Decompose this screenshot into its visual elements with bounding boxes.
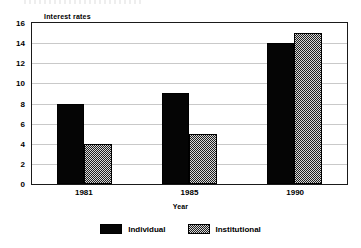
- y-axis-tick-label: 2: [21, 159, 25, 168]
- legend-label: Individual: [128, 225, 165, 234]
- bar-institutional-1985: [189, 134, 216, 184]
- bar-series-container: [32, 23, 347, 184]
- legend-swatch-institutional-icon: [188, 224, 210, 234]
- y-axis-tick-label: 0: [21, 180, 25, 189]
- bar-group-1985: [162, 23, 217, 184]
- bar-group-1981: [57, 23, 112, 184]
- legend-label: Institutional: [216, 225, 261, 234]
- bar-chart-figure: Interest rates 0246810121416 19811985199…: [0, 0, 361, 248]
- x-axis-title: Year: [0, 203, 361, 210]
- legend-entry-individual[interactable]: Individual: [100, 224, 165, 234]
- y-axis-tick-label: 6: [21, 119, 25, 128]
- y-axis-tick-label: 4: [21, 139, 25, 148]
- legend-entry-institutional[interactable]: Institutional: [188, 224, 261, 234]
- bar-institutional-1990: [294, 33, 321, 184]
- x-axis-tick-label-1990: 1990: [286, 188, 304, 197]
- y-axis-tick-label: 12: [16, 59, 25, 68]
- chart-legend: IndividualInstitutional: [0, 224, 361, 234]
- y-axis-tick-label: 16: [16, 19, 25, 28]
- plot-area: [31, 22, 348, 185]
- bar-institutional-1981: [84, 144, 111, 184]
- bar-individual-1990: [267, 43, 294, 184]
- bar-individual-1985: [162, 93, 189, 184]
- y-axis-title: Interest rates: [44, 13, 91, 20]
- x-axis-tick-label-1981: 1981: [75, 188, 93, 197]
- bar-group-1990: [267, 23, 322, 184]
- y-axis-tick-labels: 0246810121416: [0, 22, 29, 185]
- clipped-text-remnant: [24, 0, 144, 4]
- legend-swatch-individual-icon: [100, 224, 122, 234]
- y-axis-tick-label: 8: [21, 99, 25, 108]
- y-axis-tick-label: 10: [16, 79, 25, 88]
- bar-individual-1981: [57, 104, 84, 185]
- y-axis-tick-label: 14: [16, 39, 25, 48]
- x-axis-tick-label-1985: 1985: [181, 188, 199, 197]
- x-axis-tick-labels: 198119851990: [31, 188, 348, 200]
